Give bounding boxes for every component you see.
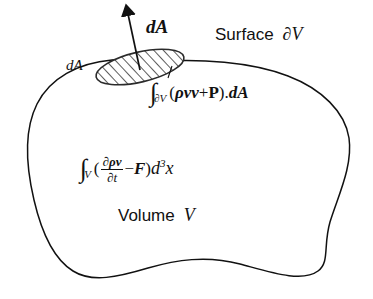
area-scalar-label: dA <box>66 58 83 73</box>
partial-derivative-fraction: ∂ρv ∂t <box>101 155 124 184</box>
minus-operator: − <box>124 159 134 178</box>
volume-word: Volume <box>118 206 175 225</box>
variable-symbol: x <box>166 158 174 178</box>
area-vector-label: dA <box>146 17 168 36</box>
volume-symbol: V <box>184 205 195 225</box>
integral-subscript: V <box>84 168 91 180</box>
volume-integral-equation: ∫V( ∂ρv ∂t −F)d3x <box>80 153 174 185</box>
diagram-canvas <box>0 0 373 299</box>
plus-operator: + <box>199 83 209 102</box>
surface-word: Surface <box>215 25 274 44</box>
vv-symbol: vv <box>184 83 199 102</box>
pressure-tensor-symbol: P <box>208 83 218 102</box>
surface-integral-equation: ∫∂V(ρvv+P).dA <box>150 77 249 103</box>
differential-exponent: 3 <box>160 157 166 169</box>
fraction-denominator: ∂t <box>101 170 124 184</box>
force-symbol: F <box>134 159 145 178</box>
volume-label: VolumeV <box>118 206 195 224</box>
fraction-numerator: ∂ρv <box>101 155 124 170</box>
differential-symbol: d <box>151 158 160 178</box>
integral-subscript: ∂V <box>154 92 166 104</box>
rho-symbol: ρ <box>175 83 184 102</box>
area-vector-symbol: dA <box>229 83 249 102</box>
surface-label: Surface∂V <box>215 25 302 43</box>
surface-symbol: ∂V <box>283 24 303 44</box>
open-paren: ( <box>94 159 100 178</box>
physics-diagram: Surface∂V VolumeV dA dA ∫∂V(ρvv+P).dA ∫V… <box>0 0 373 299</box>
